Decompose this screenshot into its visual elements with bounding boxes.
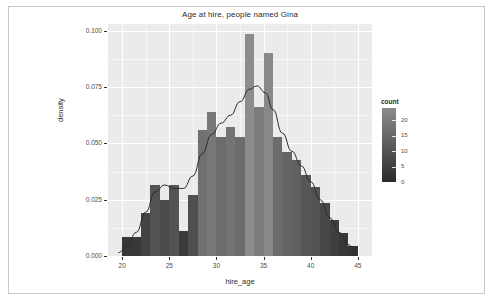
legend-tick-mark [392, 182, 396, 183]
x-tick-label: 35 [250, 262, 278, 269]
ggplot-chart: Age at hire, people named Gina 0.0000.02… [0, 0, 495, 302]
y-tick-label: 0.075 [68, 83, 102, 90]
y-tick-label: 0.025 [68, 196, 102, 203]
y-tick-label: 0.050 [68, 139, 102, 146]
x-tick-mark [216, 257, 217, 260]
y-axis-label: density [56, 98, 65, 122]
y-tick-label: 0.000 [68, 252, 102, 259]
x-tick-label: 40 [297, 262, 325, 269]
x-tick-label: 30 [202, 262, 230, 269]
y-tick-mark [104, 200, 107, 201]
x-tick-mark [122, 257, 123, 260]
y-tick-label: 0.100 [68, 27, 102, 34]
x-tick-mark [169, 257, 170, 260]
legend-tick-label: 15 [401, 132, 408, 138]
legend-tick-label: 5 [401, 163, 404, 169]
legend-tick-label: 0 [401, 179, 404, 185]
legend-colorbar [382, 108, 396, 182]
x-tick-label: 25 [155, 262, 183, 269]
legend-tick-mark [392, 151, 396, 152]
legend-title: count [381, 98, 399, 105]
legend-tick-mark [392, 120, 396, 121]
x-tick-mark [358, 257, 359, 260]
x-tick-label: 45 [344, 262, 372, 269]
x-tick-label: 20 [108, 262, 136, 269]
y-tick-mark [104, 256, 107, 257]
density-curve [108, 24, 372, 256]
y-tick-mark [104, 87, 107, 88]
y-tick-mark [104, 143, 107, 144]
chart-title: Age at hire, people named Gina [108, 10, 372, 19]
legend-tick-label: 10 [401, 148, 408, 154]
x-tick-mark [311, 257, 312, 260]
x-axis-label: hire_age [108, 277, 372, 286]
y-tick-mark [104, 31, 107, 32]
legend-tick-label: 20 [401, 117, 408, 123]
x-tick-mark [264, 257, 265, 260]
legend-tick-mark [392, 136, 396, 137]
legend-tick-mark [392, 167, 396, 168]
plot-panel [108, 24, 372, 256]
legend: count 20151050 [378, 98, 438, 190]
